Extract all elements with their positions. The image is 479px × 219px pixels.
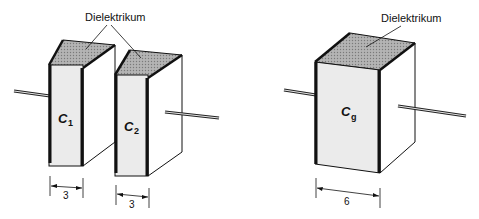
dimension-c1: 3	[50, 176, 83, 201]
lead-wire-left-cg	[284, 90, 316, 95]
subscript-c2: 2	[134, 126, 139, 136]
capacitor-diagram: C 1 3 C 2	[0, 0, 479, 219]
dimension-c2: 3	[116, 185, 149, 210]
symbol-cg: C	[341, 104, 351, 119]
dimension-label-c2: 3	[129, 199, 135, 210]
dimension-cg: 6	[316, 178, 380, 208]
dimension-label-cg: 6	[344, 196, 350, 207]
subscript-cg: g	[351, 112, 357, 122]
dielectric-label-right: Dielektrikum	[381, 12, 442, 24]
capacitor-c1: C 1 3	[14, 40, 115, 201]
dielectric-label-left: Dielektrikum	[85, 11, 146, 23]
capacitor-cg: C g 6	[284, 33, 466, 208]
capacitor-c2: C 2 3	[115, 50, 219, 210]
symbol-c1: C	[58, 111, 68, 126]
lead-wire-left-c1	[14, 91, 50, 96]
subscript-c1: 1	[68, 118, 73, 128]
dimension-label-c1: 3	[63, 190, 69, 201]
symbol-c2: C	[124, 119, 134, 134]
